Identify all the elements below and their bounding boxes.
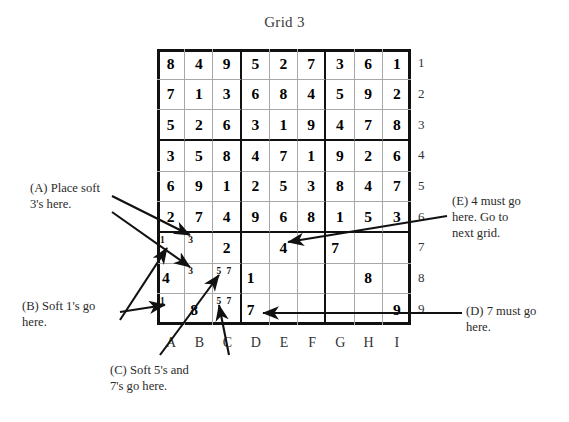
grid-cell-F5[interactable]: 3 xyxy=(298,172,326,203)
grid-cell-E4[interactable]: 7 xyxy=(270,141,298,172)
grid-cell-I4[interactable]: 6 xyxy=(383,141,411,172)
cell-value: 9 xyxy=(213,49,239,79)
grid-cell-C1[interactable]: 9 xyxy=(213,49,241,80)
cell-value: 8 xyxy=(185,294,212,325)
grid-cell-G3[interactable]: 4 xyxy=(326,110,354,141)
grid-cell-C5[interactable]: 1 xyxy=(213,172,241,203)
cell-value: 3 xyxy=(383,202,411,231)
grid-cell-E2[interactable]: 8 xyxy=(270,80,298,111)
callout-b-text: (B) Soft 1's go here. xyxy=(22,298,95,330)
callout-a-text: (A) Place soft 3's here. xyxy=(30,180,100,212)
cell-value: 5 xyxy=(270,172,297,202)
grid-cell-I9[interactable]: 9 xyxy=(383,294,411,325)
grid-cell-F4[interactable]: 1 xyxy=(298,141,326,172)
cell-value: 9 xyxy=(298,110,324,139)
grid-cell-C6[interactable]: 4 xyxy=(213,202,241,233)
grid-cell-I8[interactable] xyxy=(383,264,411,295)
grid-cell-B8[interactable]: 3 xyxy=(185,264,213,295)
grid-cell-D3[interactable]: 3 xyxy=(242,110,270,141)
grid-cell-I2[interactable]: 2 xyxy=(383,80,411,111)
cell-value: 5 xyxy=(185,141,212,171)
grid-cell-H9[interactable] xyxy=(355,294,383,325)
grid-cell-G2[interactable]: 5 xyxy=(326,80,354,111)
grid-cell-A9[interactable]: 1 xyxy=(157,294,185,325)
grid-cell-F6[interactable]: 8 xyxy=(298,202,326,233)
grid-cell-H1[interactable]: 6 xyxy=(355,49,383,80)
grid-cell-D7[interactable] xyxy=(242,233,270,264)
grid-cell-H3[interactable]: 7 xyxy=(355,110,383,141)
cell-value: 6 xyxy=(355,49,382,79)
grid-cell-A3[interactable]: 5 xyxy=(157,110,185,141)
grid-cell-A6[interactable]: 2 xyxy=(157,202,185,233)
cell-value: 8 xyxy=(355,264,382,294)
grid-cell-H7[interactable] xyxy=(355,233,383,264)
grid-cell-B7[interactable]: 3 xyxy=(185,233,213,264)
callout-c-text: (C) Soft 5's and 7's go here. xyxy=(110,362,189,394)
grid-cell-A2[interactable]: 7 xyxy=(157,80,185,111)
grid-cell-E1[interactable]: 2 xyxy=(270,49,298,80)
grid-cell-D1[interactable]: 5 xyxy=(242,49,270,80)
grid-cell-E6[interactable]: 6 xyxy=(270,202,298,233)
row-label-8: 8 xyxy=(418,270,434,286)
grid-cell-G9[interactable] xyxy=(326,294,354,325)
cell-value: 3 xyxy=(326,49,353,79)
grid-cell-B1[interactable]: 4 xyxy=(185,49,213,80)
grid-cell-I3[interactable]: 8 xyxy=(383,110,411,141)
cell-value: 8 xyxy=(213,141,239,171)
grid-cell-D2[interactable]: 6 xyxy=(242,80,270,111)
grid-cell-C7[interactable]: 2 xyxy=(213,233,241,264)
grid-cell-H4[interactable]: 2 xyxy=(355,141,383,172)
grid-cell-F2[interactable]: 4 xyxy=(298,80,326,111)
grid-cell-B9[interactable]: 8 xyxy=(185,294,213,325)
grid-cell-D5[interactable]: 2 xyxy=(242,172,270,203)
grid-cell-G7[interactable]: 7 xyxy=(326,233,354,264)
grid-cell-G1[interactable]: 3 xyxy=(326,49,354,80)
grid-cell-E7[interactable]: 4 xyxy=(270,233,298,264)
grid-cell-B4[interactable]: 5 xyxy=(185,141,213,172)
grid-cell-D9[interactable]: 7 xyxy=(242,294,270,325)
grid-cell-D6[interactable]: 9 xyxy=(242,202,270,233)
grid-cell-C4[interactable]: 8 xyxy=(213,141,241,172)
grid-cell-I5[interactable]: 7 xyxy=(383,172,411,203)
grid-cell-E9[interactable] xyxy=(270,294,298,325)
grid-cell-A4[interactable]: 3 xyxy=(157,141,185,172)
grid-cell-E3[interactable]: 1 xyxy=(270,110,298,141)
grid-cell-E8[interactable] xyxy=(270,264,298,295)
grid-cell-A7[interactable]: 1 xyxy=(157,233,185,264)
grid-cell-A1[interactable]: 8 xyxy=(157,49,185,80)
grid-cell-A5[interactable]: 6 xyxy=(157,172,185,203)
grid-cell-G6[interactable]: 1 xyxy=(326,202,354,233)
grid-cell-B3[interactable]: 2 xyxy=(185,110,213,141)
grid-cell-B2[interactable]: 1 xyxy=(185,80,213,111)
grid-cell-A8[interactable]: 4 xyxy=(157,264,185,295)
grid-cell-H5[interactable]: 4 xyxy=(355,172,383,203)
grid-cell-F1[interactable]: 7 xyxy=(298,49,326,80)
figure-title: Grid 3 xyxy=(0,14,569,31)
grid-cell-C9[interactable]: 57 xyxy=(213,294,241,325)
grid-cell-I1[interactable]: 1 xyxy=(383,49,411,80)
grid-cell-G8[interactable] xyxy=(326,264,354,295)
grid-cell-E5[interactable]: 5 xyxy=(270,172,298,203)
grid-cell-H6[interactable]: 5 xyxy=(355,202,383,233)
cell-value: 7 xyxy=(298,49,324,79)
grid-cell-H2[interactable]: 9 xyxy=(355,80,383,111)
grid-cell-I7[interactable] xyxy=(383,233,411,264)
cell-value: 6 xyxy=(242,80,269,110)
grid-cell-C8[interactable]: 57 xyxy=(213,264,241,295)
grid-cell-F8[interactable] xyxy=(298,264,326,295)
grid-cell-B5[interactable]: 9 xyxy=(185,172,213,203)
grid-cell-G5[interactable]: 8 xyxy=(326,172,354,203)
grid-cell-H8[interactable]: 8 xyxy=(355,264,383,295)
grid-cell-F3[interactable]: 9 xyxy=(298,110,326,141)
column-label-H: H xyxy=(355,335,383,351)
grid-cell-G4[interactable]: 9 xyxy=(326,141,354,172)
grid-cell-C3[interactable]: 6 xyxy=(213,110,241,141)
grid-cell-F9[interactable] xyxy=(298,294,326,325)
grid-cell-D8[interactable]: 1 xyxy=(242,264,270,295)
grid-cell-I6[interactable]: 3 xyxy=(383,202,411,233)
grid-cell-D4[interactable]: 4 xyxy=(242,141,270,172)
grid-cell-F7[interactable] xyxy=(298,233,326,264)
cell-value: 5 xyxy=(157,110,184,139)
grid-cell-C2[interactable]: 3 xyxy=(213,80,241,111)
grid-cell-B6[interactable]: 7 xyxy=(185,202,213,233)
